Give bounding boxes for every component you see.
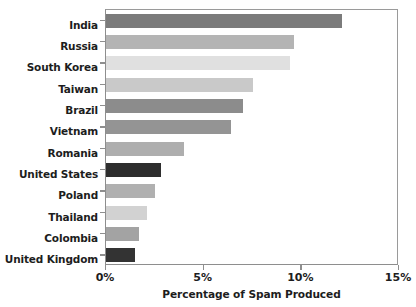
bar-row — [106, 53, 397, 74]
y-axis-label-vietnam: Vietnam — [0, 120, 98, 139]
bar-colombia — [106, 227, 139, 241]
bar-russia — [106, 35, 294, 49]
y-axis-label-text: South Korea — [27, 61, 98, 73]
y-axis-tick — [100, 62, 105, 63]
y-axis-label-text: United Kingdom — [5, 253, 98, 265]
bar-row — [106, 245, 397, 266]
y-axis-label-south-korea: South Korea — [0, 56, 98, 75]
y-axis-label-brazil: Brazil — [0, 99, 98, 118]
bar-row — [106, 181, 397, 202]
y-axis-tick — [100, 20, 105, 21]
bar-row — [106, 31, 397, 52]
y-axis-label-text: United States — [19, 168, 98, 180]
bar-row — [106, 10, 397, 31]
spam-by-country-bar-chart: IndiaRussiaSouth KoreaTaiwanBrazilVietna… — [0, 0, 416, 307]
x-axis-tick-label: 15% — [385, 271, 411, 284]
y-axis-label-india: India — [0, 14, 98, 33]
bar-brazil — [106, 99, 243, 113]
y-axis-label-poland: Poland — [0, 184, 98, 203]
y-axis-label-text: Taiwan — [58, 83, 98, 95]
bar-thailand — [106, 206, 147, 220]
x-axis-tick — [203, 265, 204, 270]
x-axis-tick — [105, 265, 106, 270]
y-axis-tick — [100, 126, 105, 127]
x-axis-tick-label: 5% — [193, 271, 212, 284]
x-axis-tick-label: 10% — [287, 271, 313, 284]
bar-vietnam — [106, 120, 231, 134]
y-axis-label-text: Russia — [60, 40, 98, 52]
y-axis-tick — [100, 105, 105, 106]
y-axis-label-text: India — [69, 19, 98, 31]
plot-area — [105, 9, 398, 265]
bar-romania — [106, 142, 184, 156]
x-axis-tick — [398, 265, 399, 270]
y-axis-label-text: Colombia — [44, 232, 98, 244]
bar-row — [106, 95, 397, 116]
y-axis-tick — [100, 84, 105, 85]
bar-taiwan — [106, 78, 253, 92]
x-axis-tick-label: 0% — [96, 271, 115, 284]
y-axis-tick — [100, 233, 105, 234]
y-axis-tick — [100, 41, 105, 42]
y-axis-tick — [100, 254, 105, 255]
bar-row — [106, 74, 397, 95]
bar-united-states — [106, 163, 161, 177]
bar-row — [106, 159, 397, 180]
y-axis-label-colombia: Colombia — [0, 227, 98, 246]
bar-south-korea — [106, 56, 290, 70]
y-axis-tick — [100, 190, 105, 191]
bar-row — [106, 202, 397, 223]
y-axis-tick — [100, 212, 105, 213]
y-axis-label-text: Romania — [48, 147, 98, 159]
x-axis-tick — [300, 265, 301, 270]
bar-row — [106, 117, 397, 138]
x-axis-title: Percentage of Spam Produced — [105, 288, 398, 300]
bar-poland — [106, 184, 155, 198]
y-axis-label-romania: Romania — [0, 142, 98, 161]
y-axis-label-united-kingdom: United Kingdom — [0, 248, 98, 267]
bar-united-kingdom — [106, 248, 135, 262]
bar-row — [106, 223, 397, 244]
bar-india — [106, 14, 342, 28]
bar-row — [106, 138, 397, 159]
y-axis-label-thailand: Thailand — [0, 206, 98, 225]
y-axis-label-text: Thailand — [48, 211, 98, 223]
y-axis-label-text: Brazil — [65, 104, 98, 116]
y-axis-label-russia: Russia — [0, 35, 98, 54]
y-axis-label-text: Vietnam — [50, 125, 98, 137]
y-axis-tick — [100, 148, 105, 149]
y-axis-label-text: Poland — [58, 189, 98, 201]
y-axis-label-taiwan: Taiwan — [0, 78, 98, 97]
y-axis-label-united-states: United States — [0, 163, 98, 182]
y-axis-tick — [100, 169, 105, 170]
